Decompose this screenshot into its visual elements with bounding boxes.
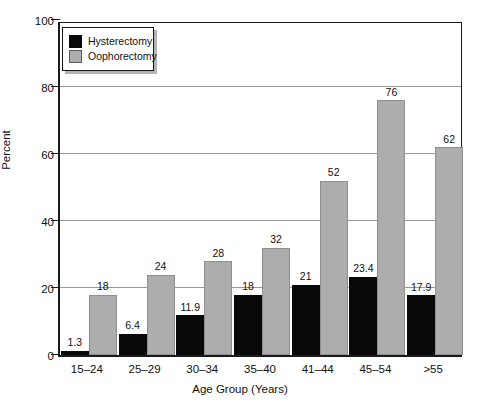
bar-oophorectomy — [435, 147, 463, 355]
x-axis-tick-label: 41–44 — [289, 363, 347, 375]
x-axis-tick-label: 25–29 — [116, 363, 174, 375]
bar-value-label: 28 — [197, 248, 239, 259]
plot-area: 1.3186.42411.9281832215223.47617.962 — [58, 22, 462, 357]
y-axis-title: Percent — [0, 100, 12, 200]
bar-value-label: 24 — [140, 261, 182, 272]
x-axis-tick-label: 30–34 — [173, 363, 231, 375]
x-axis-tick-label: >55 — [404, 363, 462, 375]
bar-oophorectomy — [147, 275, 175, 355]
bar-value-label: 18 — [82, 281, 124, 292]
bar-oophorectomy — [204, 261, 232, 355]
y-axis-tick-label: 0 — [14, 351, 54, 363]
bar-value-label: 62 — [428, 134, 470, 145]
bar-oophorectomy — [377, 100, 405, 355]
x-axis-tick-label: 45–54 — [347, 363, 405, 375]
bar-hysterectomy — [119, 334, 147, 355]
bar-hysterectomy — [292, 285, 320, 355]
bar-hysterectomy — [61, 351, 89, 355]
x-axis-tick-label: 35–40 — [231, 363, 289, 375]
chart-legend: HysterectomyOophorectomy — [62, 27, 154, 71]
legend-item-label: Oophorectomy — [88, 51, 157, 63]
x-axis-title: Age Group (Years) — [0, 383, 480, 395]
legend-item: Oophorectomy — [69, 50, 147, 63]
bar-value-label: 52 — [313, 167, 355, 178]
y-axis-tick-label: 20 — [14, 284, 54, 296]
bar-value-label: 76 — [370, 87, 412, 98]
bar-hysterectomy — [407, 295, 435, 355]
bar-hysterectomy — [234, 295, 262, 355]
gray-square-swatch — [69, 50, 82, 63]
y-axis-tick-label: 100 — [14, 16, 54, 28]
legend-item: Hysterectomy — [69, 35, 147, 48]
x-axis-tick-label: 15–24 — [58, 363, 116, 375]
bar-hysterectomy — [176, 315, 204, 355]
bar-value-label: 32 — [255, 234, 297, 245]
legend-item-label: Hysterectomy — [88, 36, 152, 48]
bar-hysterectomy — [349, 277, 377, 355]
black-square-swatch — [69, 35, 82, 48]
y-axis-tick-label: 60 — [14, 150, 54, 162]
y-axis-tick-label: 40 — [14, 217, 54, 229]
y-axis-tick-label: 80 — [14, 83, 54, 95]
chart-figure: Percent 1.3186.42411.9281832215223.47617… — [0, 0, 480, 405]
bar-oophorectomy — [262, 248, 290, 355]
